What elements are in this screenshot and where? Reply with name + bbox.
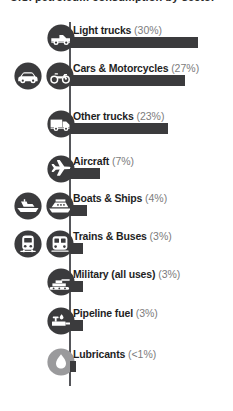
- value-bar: [70, 123, 168, 134]
- chart-row: Trains & Buses (3%): [0, 230, 233, 264]
- chart-title-text: U.S. petroleum consumption by sector: [10, 0, 215, 3]
- row-label-text: Boats & Ships: [73, 192, 142, 204]
- value-bar: [70, 75, 185, 86]
- row-label-text: Lubricants: [73, 348, 125, 360]
- petroleum-consumption-bar-chart: U.S. petroleum consumption by sector Lig…: [0, 0, 233, 411]
- row-label: Aircraft (7%): [73, 155, 134, 167]
- chart-row: Other trucks (23%): [0, 110, 233, 144]
- value-bar: [70, 281, 83, 292]
- row-label: Military (all uses) (3%): [73, 268, 180, 280]
- chart-row: Lubricants (<1%): [0, 348, 233, 382]
- row-label: Cars & Motorcycles (27%): [73, 62, 199, 74]
- value-bar: [70, 243, 83, 254]
- row-label: Trains & Buses (3%): [73, 230, 172, 242]
- row-label-text: Pipeline fuel: [73, 307, 133, 319]
- row-label: Pipeline fuel (3%): [73, 307, 158, 319]
- row-label-text: Other trucks: [73, 110, 134, 122]
- row-label-text: Light trucks: [73, 24, 131, 36]
- speedboat-icon: [14, 192, 42, 220]
- row-label: Boats & Ships (4%): [73, 192, 167, 204]
- row-percent: (3%): [150, 230, 172, 242]
- row-label-text: Trains & Buses: [73, 230, 147, 242]
- value-bar: [70, 37, 198, 48]
- row-percent: (<1%): [128, 348, 156, 360]
- row-label-text: Cars & Motorcycles: [73, 62, 168, 74]
- chart-row: Pipeline fuel (3%): [0, 307, 233, 341]
- row-label-text: Military (all uses): [73, 268, 155, 280]
- car-icon: [14, 62, 42, 90]
- row-percent: (3%): [136, 307, 158, 319]
- row-label-text: Aircraft: [73, 155, 109, 167]
- chart-row: Aircraft (7%): [0, 155, 233, 189]
- row-label: Lubricants (<1%): [73, 348, 156, 360]
- value-bar: [70, 361, 76, 372]
- chart-row: Boats & Ships (4%): [0, 192, 233, 226]
- chart-row: Light trucks (30%): [0, 24, 233, 58]
- row-label: Light trucks (30%): [73, 24, 162, 36]
- value-bar: [70, 320, 83, 331]
- chart-title-cropped: U.S. petroleum consumption by sector: [0, 0, 233, 7]
- row-percent: (30%): [134, 24, 162, 36]
- chart-row: Military (all uses) (3%): [0, 268, 233, 302]
- row-percent: (23%): [136, 110, 164, 122]
- row-label: Other trucks (23%): [73, 110, 164, 122]
- row-percent: (3%): [158, 268, 180, 280]
- row-percent: (27%): [171, 62, 199, 74]
- value-bar: [70, 205, 87, 216]
- row-percent: (7%): [112, 155, 134, 167]
- train-icon: [14, 230, 42, 258]
- chart-row: Cars & Motorcycles (27%): [0, 62, 233, 96]
- row-percent: (4%): [145, 192, 167, 204]
- value-bar: [70, 168, 100, 179]
